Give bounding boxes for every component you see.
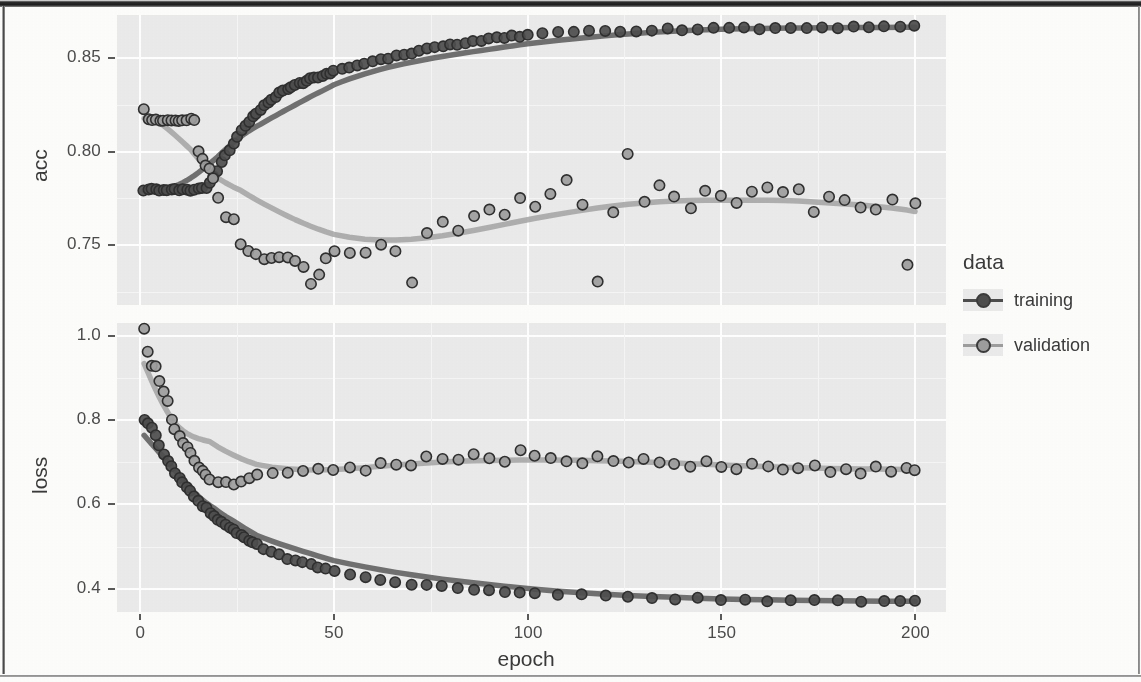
data-point (469, 585, 479, 595)
data-point (855, 468, 865, 478)
data-point (143, 346, 153, 356)
data-point (747, 459, 757, 469)
data-point (154, 376, 164, 386)
scan-bottom-edge (0, 675, 1141, 677)
plot-root: acc loss epoch 0.850.800.751.00.80.60.40… (0, 7, 1141, 675)
data-point (162, 396, 172, 406)
data-point (453, 455, 463, 465)
data-point (623, 592, 633, 602)
points-training (139, 415, 920, 607)
data-point (484, 453, 494, 463)
data-point (647, 593, 657, 603)
data-point (500, 587, 510, 597)
data-point (514, 587, 524, 597)
data-point (468, 449, 478, 459)
data-point (623, 457, 633, 467)
data-point (437, 581, 447, 591)
data-point (553, 590, 563, 600)
data-point (453, 583, 463, 593)
data-point (252, 469, 262, 479)
data-point (841, 464, 851, 474)
data-point (608, 456, 618, 466)
data-point (577, 458, 587, 468)
data-point (375, 575, 385, 585)
data-point (360, 465, 370, 475)
data-point (716, 462, 726, 472)
data-point (809, 595, 819, 605)
data-point (716, 595, 726, 605)
data-point (328, 465, 338, 475)
data-point (529, 451, 539, 461)
data-point (406, 580, 416, 590)
data-point (685, 461, 695, 471)
data-point (329, 566, 339, 576)
data-layer-loss (0, 7, 1141, 675)
data-point (561, 456, 571, 466)
data-point (484, 585, 494, 595)
data-point (421, 580, 431, 590)
data-point (576, 589, 586, 599)
data-point (762, 596, 772, 606)
data-point (437, 454, 447, 464)
data-point (833, 595, 843, 605)
data-point (731, 464, 741, 474)
data-point (167, 414, 177, 424)
data-point (909, 465, 919, 475)
data-point (879, 596, 889, 606)
data-point (345, 569, 355, 579)
data-point (391, 460, 401, 470)
scan-left-edge (2, 6, 5, 674)
data-point (406, 460, 416, 470)
data-point (151, 430, 161, 440)
scan-right-edge (1138, 6, 1140, 674)
data-point (345, 462, 355, 472)
data-point (390, 577, 400, 587)
data-point (693, 593, 703, 603)
data-point (670, 594, 680, 604)
data-point (515, 445, 525, 455)
data-point (375, 458, 385, 468)
data-point (298, 466, 308, 476)
data-point (871, 461, 881, 471)
data-point (267, 468, 277, 478)
data-point (530, 588, 540, 598)
data-point (740, 594, 750, 604)
data-point (313, 464, 323, 474)
data-point (785, 595, 795, 605)
data-point (638, 454, 648, 464)
data-point (601, 590, 611, 600)
data-point (150, 361, 160, 371)
data-point (810, 460, 820, 470)
data-point (139, 323, 149, 333)
data-point (360, 572, 370, 582)
data-point (283, 468, 293, 478)
data-point (825, 467, 835, 477)
data-point (778, 464, 788, 474)
data-point (669, 459, 679, 469)
data-point (886, 467, 896, 477)
data-point (856, 597, 866, 607)
data-point (500, 457, 510, 467)
data-point (654, 457, 664, 467)
data-point (701, 456, 711, 466)
data-point (592, 451, 602, 461)
data-point (895, 596, 905, 606)
data-point (763, 461, 773, 471)
scan-top-edge (0, 0, 1141, 7)
data-point (546, 453, 556, 463)
data-point (421, 451, 431, 461)
data-point (910, 596, 920, 606)
data-point (793, 463, 803, 473)
